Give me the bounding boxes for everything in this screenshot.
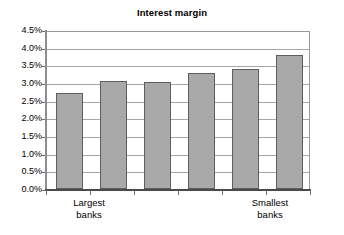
bar — [100, 81, 127, 189]
x-axis-tick-mark — [46, 190, 47, 195]
gridline — [47, 102, 309, 103]
y-axis-line — [45, 30, 47, 191]
x-axis-label-largest-banks: Largest banks — [44, 197, 134, 220]
x-axis-tick-mark — [134, 190, 135, 195]
y-axis-tick-label: 3.5% — [2, 61, 42, 70]
x-axis-label-smallest-banks-line2: banks — [224, 209, 316, 221]
x-axis-label-smallest-banks-line1: Smallest — [224, 197, 316, 209]
gridline — [47, 49, 309, 50]
gridline — [47, 119, 309, 120]
x-axis-label-largest-banks-line2: banks — [44, 209, 134, 221]
y-axis-tick-label: 4.0% — [2, 44, 42, 53]
bar — [144, 82, 171, 189]
bar — [232, 69, 259, 189]
x-axis-tick-mark — [178, 190, 179, 195]
plot-area — [46, 31, 310, 190]
y-axis-tick-label: 1.5% — [2, 132, 42, 141]
y-axis-tick-label: 0.5% — [2, 167, 42, 176]
y-axis-tick-label: 2.0% — [2, 114, 42, 123]
x-axis-tick-mark — [90, 190, 91, 195]
x-axis-tick-mark — [222, 190, 223, 195]
y-axis-tick-label: 2.5% — [2, 97, 42, 106]
chart-container: Interest margin 0.0%0.5%1.0%1.5%2.0%2.5%… — [0, 0, 344, 235]
y-axis-tick-label: 1.0% — [2, 150, 42, 159]
bar — [276, 55, 303, 189]
y-axis-tick-label: 0.0% — [2, 185, 42, 194]
x-axis-tick-mark — [310, 190, 311, 195]
x-axis-label-smallest-banks: Smallest banks — [224, 197, 316, 220]
bar — [188, 73, 215, 189]
gridline — [47, 137, 309, 138]
gridline — [47, 172, 309, 173]
y-axis-tick-label: 4.5% — [2, 26, 42, 35]
chart-title: Interest margin — [0, 7, 344, 19]
y-axis-tick-label: 3.0% — [2, 79, 42, 88]
x-axis-label-largest-banks-line1: Largest — [44, 197, 134, 209]
gridline — [47, 66, 309, 67]
x-axis-tick-mark — [266, 190, 267, 195]
gridline — [47, 84, 309, 85]
bar — [56, 93, 83, 189]
gridline — [47, 155, 309, 156]
